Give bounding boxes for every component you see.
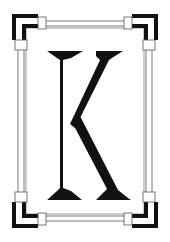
decorative-initial-artwork: K: [0, 0, 170, 242]
